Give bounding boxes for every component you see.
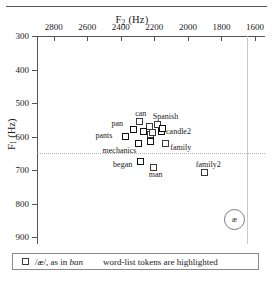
legend-key-prefix: /æ/, as in [35,257,70,267]
data-point [201,169,208,176]
data-point-label: Spanish [153,113,178,121]
vowel-formant-figure: F2 (Hz) F1 (Hz) 280026002400220020001800… [0,0,273,281]
data-point [136,118,143,125]
legend-key-label: /æ/, as in ban [35,257,83,267]
data-point-label: pants [96,132,113,140]
y-tick [32,103,37,104]
y-tick-label: 900 [3,232,29,242]
horizontal-reference-line [37,153,265,154]
data-point-highlighted [137,158,144,165]
y-tick-label: 600 [3,132,29,142]
x-tick [255,36,256,41]
y-tick-label: 300 [3,31,29,41]
y-tick-label: 800 [3,199,29,209]
x-tick [54,36,55,41]
x-tick [154,36,155,41]
data-point-highlighted [140,128,147,135]
x-tick [87,36,88,41]
y-tick-label: 700 [3,165,29,175]
y-tick [32,170,37,171]
plot-area: 2800260024002200200018001600 30040050060… [37,36,265,244]
data-point-label: family [170,144,191,152]
x-tick [221,36,222,41]
data-point-label: candle2 [166,128,191,136]
data-point [162,140,169,147]
legend-square-icon [22,258,29,265]
x-tick-label: 1600 [235,22,273,32]
y-tick [32,137,37,138]
data-point-label: man [149,171,163,179]
data-point-highlighted [130,126,137,133]
data-point [149,129,156,136]
y-tick [32,237,37,238]
y-tick [32,36,37,37]
data-point-label: can [135,110,146,118]
data-point-highlighted [159,125,166,132]
data-point-label: pan [112,120,124,128]
legend-note: word-list tokens are highlighted [103,257,218,267]
data-point-label: family2 [196,161,221,169]
data-point-label: mechanics [103,147,137,155]
data-point-highlighted [122,133,129,140]
legend: /æ/, as in ban word-list tokens are high… [12,253,259,270]
vowel-category-annotation: æ [224,209,245,230]
x-axis-line [37,36,265,37]
y-axis-line [37,36,38,244]
data-point-label: began [113,161,132,169]
y-tick-label: 500 [3,98,29,108]
figure-top-rule [6,6,267,7]
y-axis-title-main: F [6,144,17,150]
y-tick [32,70,37,71]
vertical-reference-line [247,36,248,244]
x-tick [121,36,122,41]
y-tick [32,204,37,205]
x-tick [188,36,189,41]
legend-key-example-word: ban [70,257,84,267]
data-point-highlighted [147,138,154,145]
y-tick-label: 400 [3,65,29,75]
